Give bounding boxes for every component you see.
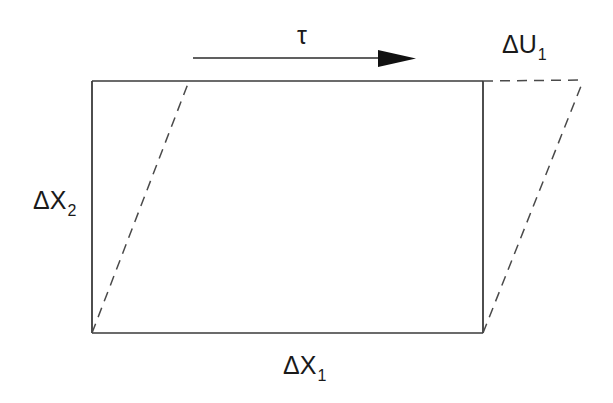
sheared-left-edge bbox=[92, 81, 189, 333]
deformed-parallelogram bbox=[92, 80, 585, 333]
shear-arrow-head bbox=[378, 50, 416, 67]
top-displacement-extension bbox=[483, 80, 585, 81]
sheared-right-edge bbox=[483, 81, 583, 333]
delta-x2-base: ΔX bbox=[33, 186, 66, 214]
shear-stress-label: τ bbox=[297, 23, 307, 48]
delta-x1-subscript: 1 bbox=[317, 367, 326, 384]
delta-u1-subscript: 1 bbox=[538, 46, 547, 63]
delta-x2-subscript: 2 bbox=[67, 202, 76, 219]
shear-deformation-figure: τ ΔU1 ΔX2 ΔX1 bbox=[0, 0, 613, 403]
delta-x1-base: ΔX bbox=[283, 351, 316, 379]
delta-x2-label: ΔX2 bbox=[33, 188, 75, 213]
undeformed-rectangle bbox=[92, 81, 483, 333]
diagram-canvas bbox=[0, 0, 613, 403]
delta-x1-label: ΔX1 bbox=[283, 353, 325, 378]
shear-arrow bbox=[193, 50, 416, 67]
delta-u1-base: ΔU bbox=[502, 30, 537, 58]
delta-u1-label: ΔU1 bbox=[502, 32, 546, 57]
